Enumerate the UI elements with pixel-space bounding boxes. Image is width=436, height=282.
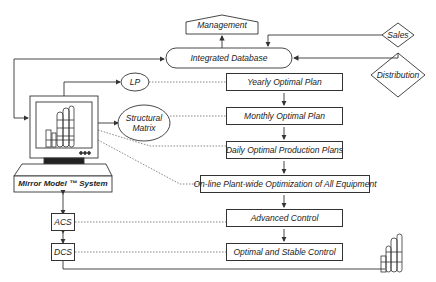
structural-matrix-label-1: Structural (118, 113, 170, 123)
dcs-box: DCS (51, 243, 75, 261)
connector-lines (0, 0, 436, 282)
daily-plans-box: Daily Optimal Production Plans (226, 141, 343, 159)
mirror-model-label: Mirror Model ™ System (14, 179, 112, 189)
sales-label: Sales (382, 30, 414, 40)
monthly-plan-box: Monthly Optimal Plan (226, 107, 343, 125)
integrated-database-label: Integrated Database (166, 53, 292, 63)
management-label: Management (186, 20, 258, 30)
lp-label: LP (121, 77, 149, 87)
advanced-control-box: Advanced Control (226, 209, 343, 227)
online-optimization-box: On-line Plant-wide Optimization of All E… (200, 175, 370, 193)
yearly-plan-box: Yearly Optimal Plan (226, 73, 343, 91)
structural-matrix-label-2: Matrix (118, 123, 170, 133)
optimal-stable-control-box: Optimal and Stable Control (226, 243, 343, 261)
distribution-label: Distribution (371, 70, 425, 80)
acs-box: ACS (51, 213, 75, 231)
